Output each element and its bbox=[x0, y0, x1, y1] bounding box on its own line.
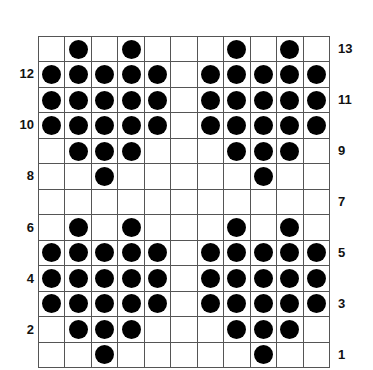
filled-dot-icon bbox=[280, 320, 299, 339]
filled-dot-icon bbox=[148, 116, 167, 135]
row-label-12: 12 bbox=[12, 66, 34, 81]
filled-dot-icon bbox=[254, 65, 273, 84]
filled-dot-icon bbox=[95, 167, 114, 186]
grid-cell bbox=[224, 292, 250, 317]
grid-cell bbox=[65, 317, 91, 342]
grid-cell bbox=[304, 164, 330, 189]
grid-cell bbox=[277, 37, 303, 62]
filled-dot-icon bbox=[254, 167, 273, 186]
filled-dot-icon bbox=[227, 218, 246, 237]
grid-cell bbox=[224, 62, 250, 87]
grid-cell bbox=[118, 241, 144, 266]
filled-dot-icon bbox=[227, 91, 246, 110]
filled-dot-icon bbox=[122, 320, 141, 339]
grid-cell bbox=[277, 113, 303, 138]
grid-cell bbox=[92, 190, 118, 215]
grid-cell bbox=[198, 113, 224, 138]
grid-cell bbox=[224, 241, 250, 266]
grid-cell bbox=[251, 88, 277, 113]
grid-cell bbox=[171, 139, 197, 164]
grid-cell bbox=[39, 317, 65, 342]
grid-cell bbox=[198, 215, 224, 240]
grid-cell bbox=[171, 190, 197, 215]
grid-cell bbox=[92, 241, 118, 266]
filled-dot-icon bbox=[69, 320, 88, 339]
filled-dot-icon bbox=[280, 218, 299, 237]
grid-cell bbox=[65, 241, 91, 266]
grid-cell bbox=[145, 343, 171, 368]
grid-cell bbox=[171, 88, 197, 113]
grid-cell bbox=[198, 266, 224, 291]
filled-dot-icon bbox=[280, 243, 299, 262]
grid-cell bbox=[145, 190, 171, 215]
filled-dot-icon bbox=[122, 116, 141, 135]
filled-dot-icon bbox=[254, 320, 273, 339]
filled-dot-icon bbox=[148, 91, 167, 110]
grid-cell bbox=[224, 37, 250, 62]
grid-cell bbox=[304, 113, 330, 138]
grid-cell bbox=[92, 343, 118, 368]
grid-cell bbox=[198, 241, 224, 266]
grid-cell bbox=[277, 266, 303, 291]
filled-dot-icon bbox=[201, 65, 220, 84]
grid-cell bbox=[304, 317, 330, 342]
filled-dot-icon bbox=[254, 116, 273, 135]
knitting-chart-grid bbox=[38, 36, 330, 368]
grid-cell bbox=[145, 88, 171, 113]
row-label-11: 11 bbox=[338, 92, 352, 107]
filled-dot-icon bbox=[69, 91, 88, 110]
filled-dot-icon bbox=[122, 243, 141, 262]
filled-dot-icon bbox=[280, 91, 299, 110]
grid-cell bbox=[92, 113, 118, 138]
grid-cell bbox=[198, 139, 224, 164]
grid-cell bbox=[251, 190, 277, 215]
grid-cell bbox=[39, 62, 65, 87]
grid-cell bbox=[224, 88, 250, 113]
grid-cell bbox=[277, 88, 303, 113]
grid-cell bbox=[65, 292, 91, 317]
filled-dot-icon bbox=[95, 91, 114, 110]
grid-cell bbox=[92, 215, 118, 240]
grid-cell bbox=[277, 343, 303, 368]
row-label-13: 13 bbox=[338, 41, 352, 56]
grid-cell bbox=[39, 37, 65, 62]
grid-cell bbox=[171, 37, 197, 62]
filled-dot-icon bbox=[95, 320, 114, 339]
grid-cell bbox=[224, 266, 250, 291]
grid-cell bbox=[198, 88, 224, 113]
filled-dot-icon bbox=[307, 269, 326, 288]
grid-cell bbox=[118, 88, 144, 113]
grid-cell bbox=[277, 62, 303, 87]
grid-cell bbox=[145, 317, 171, 342]
grid-cell bbox=[224, 343, 250, 368]
row-label-10: 10 bbox=[12, 117, 34, 132]
filled-dot-icon bbox=[148, 243, 167, 262]
grid-cell bbox=[224, 317, 250, 342]
grid-cell bbox=[251, 266, 277, 291]
row-label-7: 7 bbox=[338, 194, 345, 209]
filled-dot-icon bbox=[148, 65, 167, 84]
filled-dot-icon bbox=[280, 294, 299, 313]
filled-dot-icon bbox=[201, 243, 220, 262]
filled-dot-icon bbox=[42, 91, 61, 110]
grid-cell bbox=[304, 241, 330, 266]
grid-cell bbox=[224, 164, 250, 189]
grid-cell bbox=[39, 164, 65, 189]
grid-cell bbox=[118, 343, 144, 368]
filled-dot-icon bbox=[201, 116, 220, 135]
row-label-1: 1 bbox=[338, 347, 345, 362]
grid-cell bbox=[145, 266, 171, 291]
grid-cell bbox=[65, 215, 91, 240]
grid-cell bbox=[39, 343, 65, 368]
grid-cell bbox=[65, 139, 91, 164]
row-label-3: 3 bbox=[338, 296, 345, 311]
row-label-5: 5 bbox=[338, 245, 345, 260]
grid-cell bbox=[198, 190, 224, 215]
grid-cell bbox=[251, 241, 277, 266]
filled-dot-icon bbox=[227, 65, 246, 84]
row-label-6: 6 bbox=[12, 220, 34, 235]
filled-dot-icon bbox=[69, 294, 88, 313]
filled-dot-icon bbox=[122, 40, 141, 59]
grid-cell bbox=[118, 164, 144, 189]
grid-cell bbox=[198, 292, 224, 317]
